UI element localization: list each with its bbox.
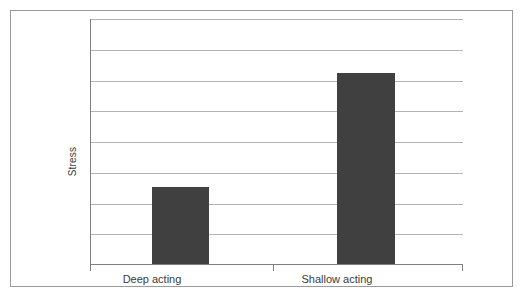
plot-area bbox=[90, 19, 463, 265]
y-axis-title: Stress bbox=[63, 131, 83, 191]
x-axis-tick bbox=[462, 265, 463, 271]
y-axis-line bbox=[90, 19, 91, 265]
chart-figure-frame: Stress Deep acting Shallow acting bbox=[10, 10, 513, 287]
x-axis-tick bbox=[90, 265, 91, 271]
gridline bbox=[90, 19, 463, 20]
gridline bbox=[90, 142, 463, 143]
x-axis-tick bbox=[273, 265, 274, 271]
gridline bbox=[90, 111, 463, 112]
x-axis-label-deep-acting: Deep acting bbox=[92, 273, 212, 285]
y-axis-title-label: Stress bbox=[68, 146, 79, 176]
gridline bbox=[90, 50, 463, 51]
gridline bbox=[90, 173, 463, 174]
gridline bbox=[90, 234, 463, 235]
bar-shallow-acting[interactable] bbox=[337, 73, 395, 264]
x-axis-line bbox=[90, 264, 463, 265]
gridline bbox=[90, 81, 463, 82]
x-axis-label-shallow-acting: Shallow acting bbox=[277, 273, 397, 285]
gridline bbox=[90, 204, 463, 205]
bar-deep-acting[interactable] bbox=[152, 187, 209, 264]
